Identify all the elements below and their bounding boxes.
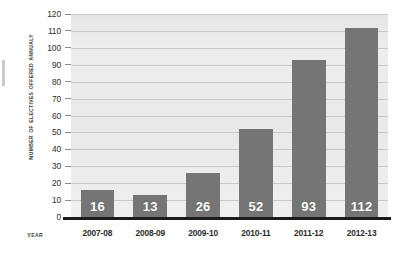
- y-axis-tick: 80: [52, 77, 71, 87]
- bar-value-label: 13: [143, 200, 158, 217]
- x-axis-tick-label: 2007-08: [71, 228, 124, 238]
- bar[interactable]: 112: [345, 28, 379, 217]
- bar-value-label: 26: [196, 200, 211, 217]
- y-axis-tick: 50: [52, 127, 71, 137]
- x-axis-title: Year: [27, 229, 43, 239]
- y-axis-tick: 110: [48, 26, 71, 36]
- y-axis-tick: 20: [52, 178, 71, 188]
- y-axis-tick: 90: [52, 60, 71, 70]
- y-axis-tick-label: 70: [52, 94, 65, 104]
- bar-value-label: 16: [90, 200, 105, 217]
- bar-value-label: 112: [351, 200, 373, 217]
- x-axis-tick-label: 2008-09: [124, 228, 177, 238]
- bar-slot: 13: [124, 14, 177, 217]
- bar-slot: 26: [177, 14, 230, 217]
- y-axis-tick: 100: [47, 43, 71, 53]
- bar-slot: 93: [282, 14, 335, 217]
- x-axis-tick-label: 2012-13: [335, 228, 388, 238]
- y-axis-tick: 70: [52, 94, 71, 104]
- x-axis-tick-label: 2010-11: [229, 228, 282, 238]
- bar-series: 1613265293112: [71, 14, 388, 217]
- bar-chart-figure: Number of Electives Offered Annualy 1201…: [0, 0, 394, 255]
- y-axis-tick: 120: [47, 9, 71, 19]
- y-axis-tick: 10: [52, 195, 71, 205]
- bar-value-label: 52: [248, 200, 263, 217]
- y-axis-tick-label: 120: [47, 9, 65, 19]
- x-axis-tick-labels: 2007-082008-092009-102010-112011-122012-…: [71, 228, 388, 238]
- y-axis-tick-label: 40: [52, 144, 65, 154]
- bar-slot: 112: [335, 14, 388, 217]
- y-axis-tick-label: 60: [52, 111, 65, 121]
- bar-slot: 16: [71, 14, 124, 217]
- y-axis-tick-label: 80: [52, 77, 65, 87]
- x-axis-tick-label: 2009-10: [177, 228, 230, 238]
- x-axis-tick-label: 2011-12: [282, 228, 335, 238]
- x-axis-line: [63, 217, 391, 220]
- y-axis-tick: 60: [52, 111, 71, 121]
- bar-value-label: 93: [301, 200, 316, 217]
- y-axis-tick-label: 10: [52, 195, 65, 205]
- y-axis-tick-label: 100: [47, 43, 65, 53]
- bar[interactable]: 16: [81, 190, 115, 217]
- y-axis-tick-label: 50: [52, 127, 65, 137]
- y-axis-tick: 40: [52, 144, 71, 154]
- y-axis-ticks: 1201101009080706050403020100: [0, 0, 71, 217]
- bar[interactable]: 26: [186, 173, 220, 217]
- y-axis-tick-label: 110: [48, 26, 65, 36]
- bar-slot: 52: [229, 14, 282, 217]
- bar[interactable]: 93: [292, 60, 326, 217]
- y-axis-tick-label: 90: [52, 60, 65, 70]
- y-axis-tick-label: 20: [52, 178, 65, 188]
- bar[interactable]: 52: [239, 129, 273, 217]
- y-axis-tick: 30: [52, 161, 71, 171]
- y-axis-tick-label: 30: [52, 161, 65, 171]
- bar[interactable]: 13: [133, 195, 167, 217]
